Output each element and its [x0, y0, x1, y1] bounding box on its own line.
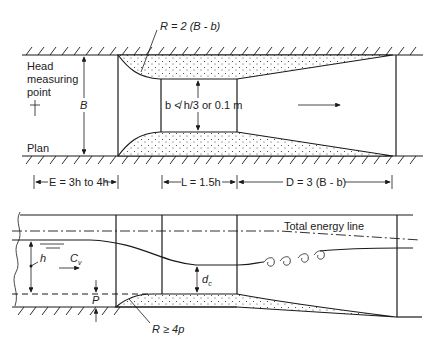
radius-label: R = 2 (B - b) — [160, 20, 221, 32]
plan-top-wall-hatching — [26, 47, 416, 55]
critical-depth-label: dc — [202, 273, 212, 287]
total-energy-line-label: Total energy line — [284, 220, 364, 232]
head-label-line3: point — [27, 86, 51, 98]
profile-view: Total energy line h — [12, 212, 422, 335]
dimension-row: E = 3h to 4h L = 1.5h D = 3 (B - b) — [34, 175, 392, 189]
throat-width-label: b ≮ h/3 or 0.1 m — [165, 99, 242, 111]
plan-top-contraction-fill — [118, 55, 393, 79]
sill-radius-label: R ≥ 4p — [152, 323, 184, 335]
water-level-icon — [40, 244, 64, 248]
venturi-flume-diagram: B b ≮ h/3 or 0.1 m R = 2 (B - b) Head me… — [0, 0, 436, 348]
plan-label: Plan — [27, 142, 49, 154]
plan-bottom-contraction-fill — [118, 132, 393, 156]
depth-h-label: h — [40, 252, 46, 264]
plan-view: B b ≮ h/3 or 0.1 m R = 2 (B - b) Head me… — [22, 20, 423, 164]
dim-B-label: B — [80, 99, 87, 111]
head-measuring-point-icon — [30, 100, 40, 116]
plan-bottom-wall-hatching — [26, 156, 416, 164]
velocity-label: Cv — [70, 252, 82, 266]
sill-height-label: P — [92, 294, 100, 306]
dim-L-label: L = 1.5h — [181, 176, 221, 188]
profile-break-line — [14, 212, 20, 306]
total-energy-line — [12, 231, 420, 240]
sill-fill — [116, 294, 396, 317]
hydraulic-jump-eddies-icon — [264, 251, 324, 266]
dim-E-label: E = 3h to 4h — [49, 176, 109, 188]
dim-D-label: D = 3 (B - b) — [286, 176, 346, 188]
head-label-line2: measuring — [27, 73, 78, 85]
head-label-line1: Head — [27, 60, 53, 72]
